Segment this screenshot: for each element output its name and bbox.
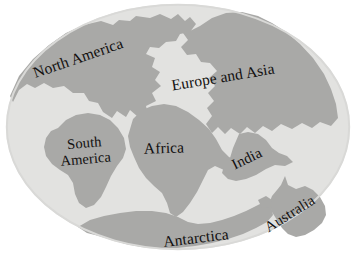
- pangaea-map-figure: North America Europe and Asia South Amer…: [0, 0, 360, 258]
- map-canvas: [0, 0, 360, 258]
